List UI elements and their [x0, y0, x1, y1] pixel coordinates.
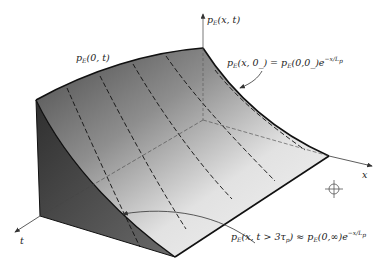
initial-profile-label: pE(x, 0_) = pE(0,0_)e−x/Lp [227, 56, 343, 69]
surface-diagram [0, 0, 381, 268]
t-axis-label: t [20, 236, 24, 246]
steady-profile-label: pE(x, t > 3τp) ≈ pE(0,∞)e−x/Lp [231, 230, 366, 243]
crosshair-icon [325, 180, 343, 198]
initial-pointer [240, 71, 262, 88]
x-axis [329, 156, 372, 166]
p-axis-label: pE(x, t) [207, 15, 240, 26]
edge-t-label: pE(0, t) [76, 53, 110, 64]
t-axis [15, 216, 40, 232]
x-axis-label: x [362, 170, 367, 180]
